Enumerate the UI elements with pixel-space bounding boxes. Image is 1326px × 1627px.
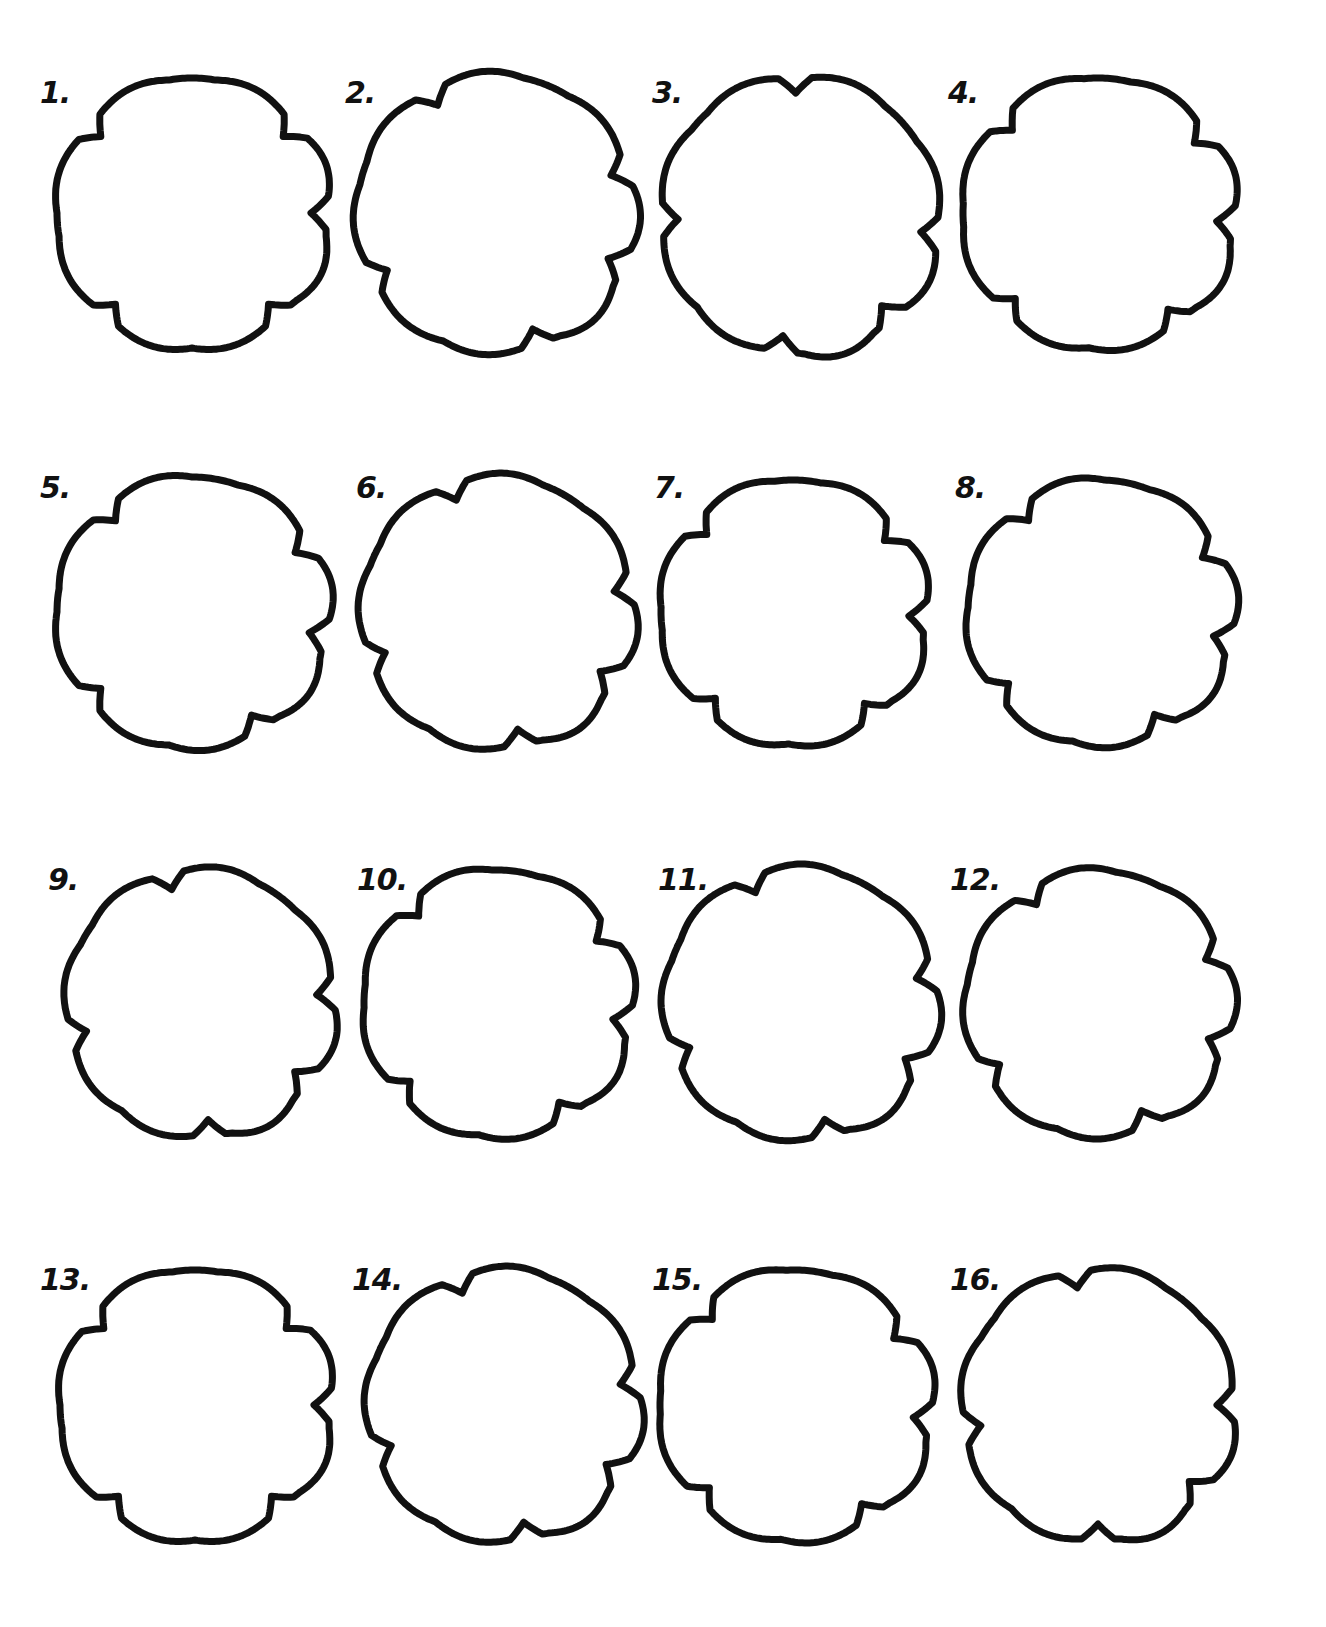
notched-shape-13 xyxy=(0,0,1326,1627)
shape-number-label: 2. xyxy=(345,75,375,110)
notched-shape-9 xyxy=(0,0,1326,1627)
notched-shape-14 xyxy=(0,0,1326,1627)
notched-shape-6 xyxy=(0,0,1326,1627)
notched-shape-15 xyxy=(0,0,1326,1627)
notched-shape-12 xyxy=(0,0,1326,1627)
notched-shape-5 xyxy=(0,0,1326,1627)
shape-number-label: 8. xyxy=(955,470,985,505)
shape-number-label: 11. xyxy=(658,862,708,897)
shape-number-label: 7. xyxy=(654,470,684,505)
notched-shape-10 xyxy=(0,0,1326,1627)
shape-number-label: 3. xyxy=(652,75,682,110)
shape-number-label: 6. xyxy=(356,470,386,505)
notched-shape-8 xyxy=(0,0,1326,1627)
notched-shape-1 xyxy=(0,0,1326,1627)
shape-number-label: 16. xyxy=(950,1262,1000,1297)
notched-shape-16 xyxy=(0,0,1326,1627)
shape-number-label: 13. xyxy=(40,1262,90,1297)
shape-number-label: 10. xyxy=(357,862,407,897)
shape-number-label: 9. xyxy=(48,862,78,897)
shape-number-label: 1. xyxy=(40,75,70,110)
notched-shape-4 xyxy=(0,0,1326,1627)
shape-number-label: 15. xyxy=(652,1262,702,1297)
shape-number-label: 5. xyxy=(40,470,70,505)
shape-number-label: 12. xyxy=(950,862,1000,897)
shape-number-label: 4. xyxy=(948,75,978,110)
worksheet: 1.2.3.4.5.6.7.8.9.10.11.12.13.14.15.16. xyxy=(0,0,1326,1627)
notched-shape-2 xyxy=(0,0,1326,1627)
shape-number-label: 14. xyxy=(352,1262,402,1297)
notched-shape-3 xyxy=(0,0,1326,1627)
notched-shape-7 xyxy=(0,0,1326,1627)
notched-shape-11 xyxy=(0,0,1326,1627)
